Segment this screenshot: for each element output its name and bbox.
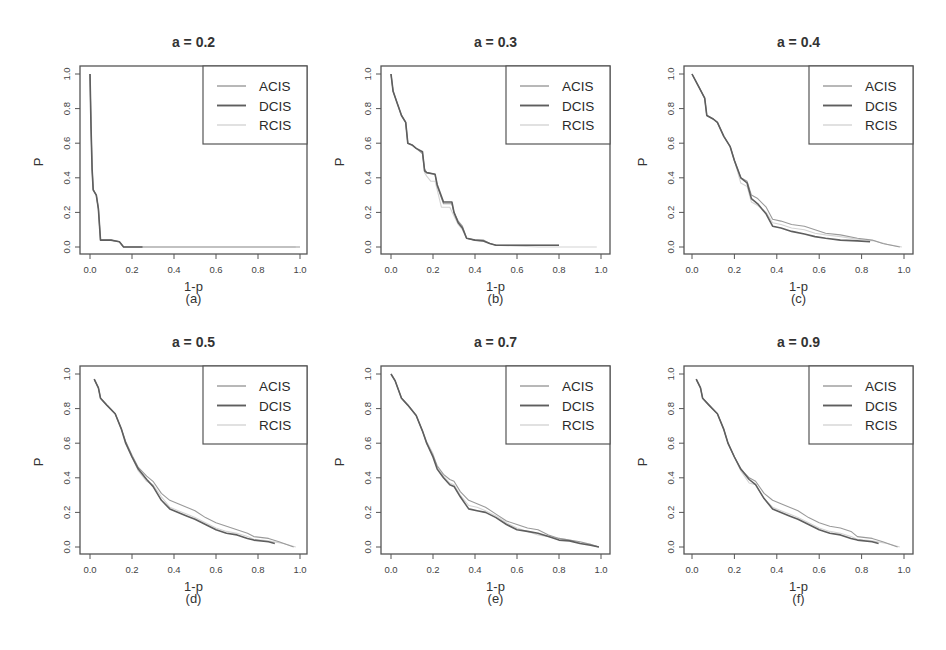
y-tick-label: 0.4 xyxy=(665,471,676,484)
panel-d: a = 0.50.00.20.40.60.81.00.00.20.40.60.8… xyxy=(31,334,307,606)
x-tick-label: 0.0 xyxy=(83,564,96,575)
legend: ACISDCISRCIS xyxy=(506,366,610,444)
x-tick-label: 0.6 xyxy=(510,264,523,275)
y-tick-label: 0.8 xyxy=(362,402,373,415)
legend-label-acis: ACIS xyxy=(865,79,897,94)
panel-b: a = 0.30.00.20.40.60.81.00.00.20.40.60.8… xyxy=(332,34,610,306)
x-tick-label: 0.4 xyxy=(770,564,783,575)
panel-title: a = 0.3 xyxy=(474,34,517,50)
x-tick-label: 0.8 xyxy=(552,564,565,575)
y-tick-label: 0.8 xyxy=(61,402,72,415)
y-tick-label: 0.4 xyxy=(362,471,373,484)
figure: a = 0.20.00.20.40.60.81.00.00.20.40.60.8… xyxy=(0,0,946,650)
x-tick-label: 0.2 xyxy=(125,264,138,275)
x-tick-label: 1.0 xyxy=(293,564,306,575)
x-tick-label: 0.8 xyxy=(251,564,264,575)
y-tick-label: 0.0 xyxy=(665,540,676,553)
legend: ACISDCISRCIS xyxy=(506,66,610,144)
x-tick-label: 0.8 xyxy=(251,264,264,275)
x-tick-label: 1.0 xyxy=(897,264,910,275)
y-tick-label: 0.0 xyxy=(61,240,72,253)
x-tick-label: 0.0 xyxy=(384,564,397,575)
y-axis: 0.00.20.40.60.81.0 xyxy=(362,367,381,553)
x-tick-label: 0.6 xyxy=(510,564,523,575)
panel-f: a = 0.90.00.20.40.60.81.00.00.20.40.60.8… xyxy=(635,334,913,606)
panel-title: a = 0.2 xyxy=(172,34,215,50)
y-axis: 0.00.20.40.60.81.0 xyxy=(61,67,80,253)
panel-e: a = 0.70.00.20.40.60.81.00.00.20.40.60.8… xyxy=(332,334,610,606)
y-tick-label: 0.8 xyxy=(665,102,676,115)
panel-sublabel: (d) xyxy=(186,591,202,606)
y-axis-label: P xyxy=(31,458,46,467)
legend-label-rcis: RCIS xyxy=(865,418,897,433)
x-tick-label: 0.2 xyxy=(426,264,439,275)
y-tick-label: 0.4 xyxy=(61,471,72,484)
legend-label-acis: ACIS xyxy=(865,379,897,394)
panel-sublabel: (b) xyxy=(488,291,504,306)
x-tick-label: 0.0 xyxy=(83,264,96,275)
x-tick-label: 0.0 xyxy=(685,264,698,275)
legend-label-dcis: DCIS xyxy=(259,399,291,414)
x-tick-label: 1.0 xyxy=(293,264,306,275)
legend-label-dcis: DCIS xyxy=(865,399,897,414)
x-tick-label: 0.8 xyxy=(855,564,868,575)
y-tick-label: 1.0 xyxy=(61,67,72,80)
panel-title: a = 0.7 xyxy=(474,334,517,350)
x-axis: 0.00.20.40.60.81.0 xyxy=(83,554,306,575)
x-tick-label: 0.2 xyxy=(728,264,741,275)
y-tick-label: 0.0 xyxy=(362,540,373,553)
y-tick-label: 0.0 xyxy=(61,540,72,553)
x-tick-label: 1.0 xyxy=(594,564,607,575)
y-axis: 0.00.20.40.60.81.0 xyxy=(61,367,80,553)
x-tick-label: 0.8 xyxy=(855,264,868,275)
y-axis-label: P xyxy=(635,458,650,467)
panel-title: a = 0.5 xyxy=(172,334,215,350)
y-tick-label: 0.6 xyxy=(665,137,676,150)
legend-label-acis: ACIS xyxy=(259,379,291,394)
legend-label-acis: ACIS xyxy=(562,79,594,94)
y-tick-label: 1.0 xyxy=(362,67,373,80)
legend-label-acis: ACIS xyxy=(259,79,291,94)
x-axis: 0.00.20.40.60.81.0 xyxy=(384,254,607,275)
legend-label-dcis: DCIS xyxy=(562,399,594,414)
y-axis-label: P xyxy=(635,158,650,167)
panel-sublabel: (e) xyxy=(488,591,504,606)
y-tick-label: 0.4 xyxy=(61,171,72,184)
x-tick-label: 0.2 xyxy=(728,564,741,575)
x-tick-label: 0.6 xyxy=(209,264,222,275)
x-axis: 0.00.20.40.60.81.0 xyxy=(83,254,306,275)
y-tick-label: 0.8 xyxy=(362,102,373,115)
y-tick-label: 0.6 xyxy=(61,137,72,150)
y-tick-label: 0.6 xyxy=(61,437,72,450)
y-tick-label: 1.0 xyxy=(61,367,72,380)
x-tick-label: 1.0 xyxy=(594,264,607,275)
y-axis: 0.00.20.40.60.81.0 xyxy=(665,67,684,253)
x-tick-label: 0.2 xyxy=(125,564,138,575)
x-tick-label: 0.6 xyxy=(813,264,826,275)
y-tick-label: 0.2 xyxy=(665,206,676,219)
y-tick-label: 0.4 xyxy=(362,171,373,184)
x-tick-label: 0.4 xyxy=(770,264,783,275)
panel-a: a = 0.20.00.20.40.60.81.00.00.20.40.60.8… xyxy=(31,34,307,306)
y-tick-label: 1.0 xyxy=(665,367,676,380)
legend-label-dcis: DCIS xyxy=(259,99,291,114)
x-tick-label: 0.0 xyxy=(384,264,397,275)
legend-label-rcis: RCIS xyxy=(259,118,291,133)
legend: ACISDCISRCIS xyxy=(203,366,307,444)
x-tick-label: 0.8 xyxy=(552,264,565,275)
y-tick-label: 0.0 xyxy=(362,240,373,253)
x-tick-label: 0.0 xyxy=(685,564,698,575)
legend-label-rcis: RCIS xyxy=(562,118,594,133)
x-tick-label: 0.4 xyxy=(167,564,180,575)
y-tick-label: 1.0 xyxy=(362,367,373,380)
x-tick-label: 0.4 xyxy=(468,264,481,275)
y-tick-label: 0.6 xyxy=(362,437,373,450)
y-axis: 0.00.20.40.60.81.0 xyxy=(362,67,381,253)
y-tick-label: 0.6 xyxy=(362,137,373,150)
y-tick-label: 0.2 xyxy=(362,506,373,519)
y-tick-label: 0.2 xyxy=(665,506,676,519)
legend-label-rcis: RCIS xyxy=(259,418,291,433)
x-tick-label: 0.4 xyxy=(468,564,481,575)
x-tick-label: 0.2 xyxy=(426,564,439,575)
y-tick-label: 0.6 xyxy=(665,437,676,450)
